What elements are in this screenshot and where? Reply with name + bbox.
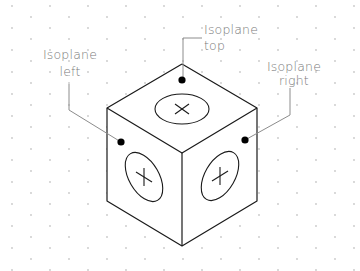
- label-isoplane-top-line2: top: [204, 38, 225, 53]
- label-isoplane-right-line2: right: [279, 73, 309, 88]
- label-isoplane-right-line1: Isoplane: [267, 59, 321, 74]
- marker-dot-top: [178, 76, 185, 83]
- label-isoplane-top-line1: Isoplane: [204, 22, 258, 37]
- marker-dot-left: [117, 138, 124, 145]
- label-isoplane-left-line1: Isoplane: [43, 47, 97, 62]
- marker-dot-right: [241, 136, 248, 143]
- label-isoplane-left-line2: left: [59, 64, 80, 79]
- isoplane-diagram: Isoplane left Isoplane top Isoplane righ…: [0, 0, 360, 271]
